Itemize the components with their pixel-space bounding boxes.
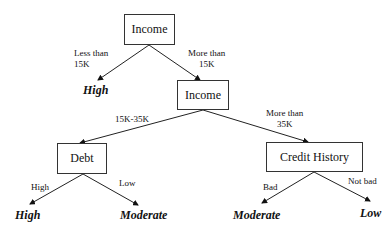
edge-label-line: Less than [74, 48, 108, 59]
node-income-second: Income [177, 80, 229, 110]
edge-label-less-than-15k: Less than 15K [74, 48, 108, 70]
edge-label-line: 15K [74, 59, 108, 70]
edge-label-line: Low [119, 178, 136, 188]
leaf-low-credit: Low [360, 206, 381, 221]
edge-label-line: More than [266, 108, 303, 119]
node-label: Income [132, 22, 168, 37]
edge-label-more-than-15k: More than 15K [188, 48, 225, 70]
edge-label-line: 35K [266, 119, 303, 130]
node-credit-history: Credit History [266, 142, 363, 172]
leaf-high-root: High [83, 83, 108, 98]
edge-label-line: More than [188, 48, 225, 59]
edge-label-debt-low: Low [119, 178, 136, 189]
leaf-high-debt: High [15, 208, 40, 223]
edge-label-line: 15K [188, 59, 225, 70]
edge-label-line: 15K-35K [115, 114, 149, 124]
edge-label-line: Not bad [348, 176, 377, 186]
edge-label-line: Bad [263, 182, 278, 192]
node-label: Debt [70, 151, 93, 166]
edge-label-line: High [31, 182, 49, 192]
edge-label-more-than-35k: More than 35K [266, 108, 303, 130]
tree-edges [0, 0, 392, 233]
leaf-moderate-debt: Moderate [120, 208, 167, 223]
edge-label-not-bad: Not bad [348, 176, 377, 187]
decision-tree-diagram: Income Income Debt Credit History Less t… [0, 0, 392, 233]
node-label: Credit History [280, 150, 349, 165]
edge-label-bad: Bad [263, 182, 278, 193]
node-debt: Debt [57, 143, 107, 174]
edge-label-15k-35k: 15K-35K [115, 114, 149, 125]
node-income-root: Income [124, 14, 175, 45]
leaf-moderate-credit: Moderate [233, 208, 280, 223]
node-label: Income [185, 88, 221, 103]
edge-label-debt-high: High [31, 182, 49, 193]
